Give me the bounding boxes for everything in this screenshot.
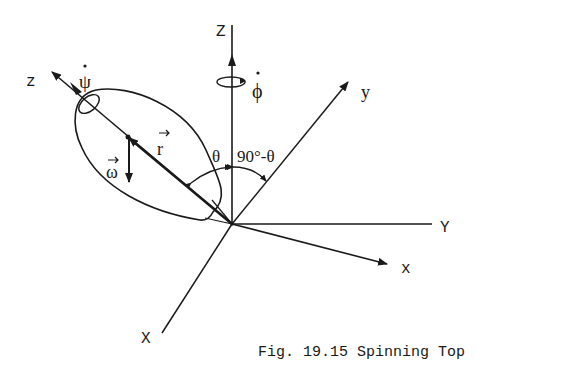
figure-caption: Fig. 19.15 Spinning Top [258,344,465,361]
omega-vector-label: ω [106,162,118,182]
Y-axis-label: Y [440,219,450,237]
x-axis-label: x [401,260,411,278]
theta-label: θ [212,147,220,166]
complement-angle-arc [233,167,266,181]
X-axis-label: X [141,330,151,348]
r-vector-arrow-accent [159,130,169,136]
theta-arc [191,167,231,183]
phi-dot-dot [256,71,259,74]
spinning-top-diagram: Z ϕ y Y x X z ψ r ω θ 90°-θ Fig. 19.15 S… [0,0,562,375]
origin-point [230,222,234,226]
y-axis-label: y [361,82,370,102]
center-of-mass-dot [126,135,131,140]
psi-dot-dot [83,64,86,67]
phi-dot-label: ϕ [252,80,263,103]
r-vector-label: r [157,139,163,159]
x-axis [232,224,387,264]
Z-axis-label: Z [216,23,226,41]
complement-angle-label: 90°-θ [237,147,275,166]
Z-axis-arrowhead [228,54,236,66]
z-axis-label: z [26,73,36,91]
X-axis [162,224,232,333]
psi-dot-label: ψ [79,71,91,92]
